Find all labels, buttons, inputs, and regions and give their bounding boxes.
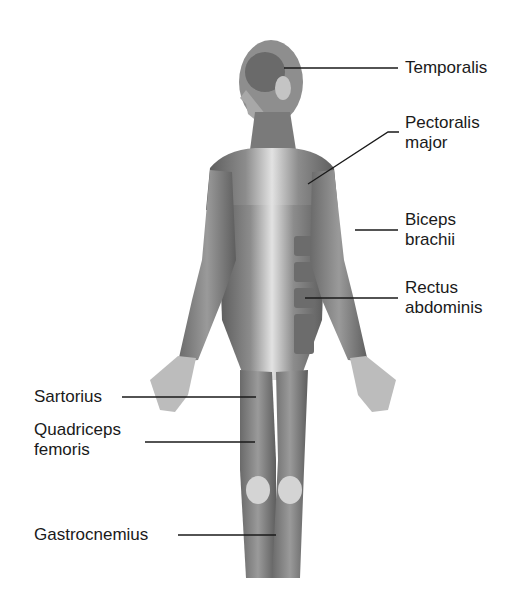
muscle-diagram: Temporalis Pectoralis major Biceps brach… xyxy=(0,0,527,606)
neck xyxy=(250,112,296,150)
right-hand xyxy=(150,356,196,412)
label-gastrocnemius: Gastrocnemius xyxy=(34,525,148,545)
label-rectus-abdominis: Rectus abdominis xyxy=(405,278,483,318)
left-arm xyxy=(310,170,368,362)
left-leg xyxy=(272,370,308,578)
left-knee xyxy=(278,476,302,504)
label-quadriceps-femoris: Quadriceps femoris xyxy=(34,420,121,460)
label-temporalis: Temporalis xyxy=(405,58,487,78)
left-hand xyxy=(350,356,396,412)
right-knee xyxy=(246,476,270,504)
head xyxy=(239,40,303,124)
label-biceps-brachii: Biceps brachii xyxy=(405,210,456,250)
label-pectoralis-major: Pectoralis major xyxy=(405,113,480,153)
label-sartorius: Sartorius xyxy=(34,387,102,407)
right-leg xyxy=(240,370,276,578)
